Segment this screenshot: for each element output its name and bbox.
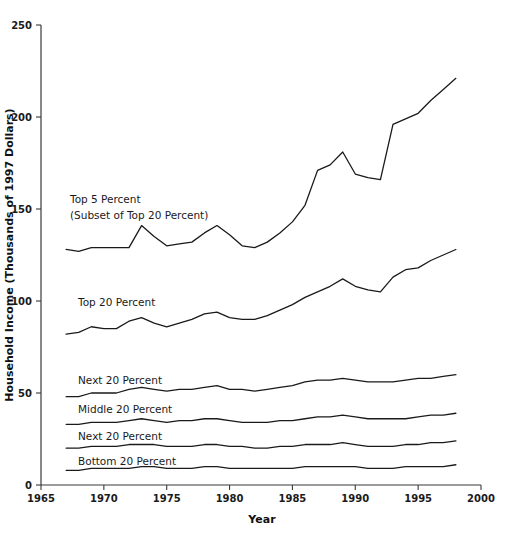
y-tick-label: 0 (25, 480, 32, 491)
top20-label: Top 20 Percent (77, 296, 155, 308)
x-tick-label: 1970 (90, 493, 118, 504)
line-chart: Household Income (Thousands of 1997 Doll… (0, 0, 515, 544)
x-tick-label: 1985 (279, 493, 307, 504)
series-line (66, 249, 456, 334)
bottom20-label: Bottom 20 Percent (78, 455, 176, 467)
y-tick-label: 100 (11, 296, 32, 307)
top5-label: Top 5 Percent (69, 193, 141, 205)
top5-sublabel: (Subset of Top 20 Percent) (70, 209, 208, 221)
x-axis-title: Year (247, 513, 276, 526)
y-axis-title: Household Income (Thousands of 1997 Doll… (3, 108, 16, 401)
x-tick-label: 1965 (27, 493, 55, 504)
x-axis-ticks: 19651970197519801985199019952000 (27, 485, 495, 504)
y-tick-label: 200 (11, 112, 32, 123)
x-tick-label: 1980 (216, 493, 244, 504)
y-tick-label: 250 (11, 20, 32, 31)
middle20-label: Middle 20 Percent (78, 403, 172, 415)
x-tick-label: 2000 (467, 493, 495, 504)
chart-container: Household Income (Thousands of 1997 Doll… (0, 0, 515, 544)
x-tick-label: 1975 (153, 493, 181, 504)
series-line (66, 78, 456, 251)
y-tick-label: 50 (18, 388, 32, 399)
series-labels: Top 5 Percent(Subset of Top 20 Percent)T… (69, 193, 208, 467)
second20-label: Next 20 Percent (78, 430, 162, 442)
x-tick-label: 1995 (404, 493, 432, 504)
x-tick-label: 1990 (341, 493, 369, 504)
next20-label: Next 20 Percent (78, 374, 162, 386)
y-tick-label: 150 (11, 204, 32, 215)
